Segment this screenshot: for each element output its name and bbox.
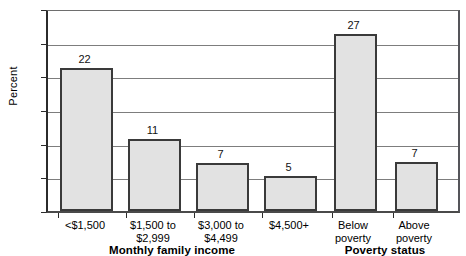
y-axis-label: Percent: [7, 49, 19, 123]
bar-income-under-1500[interactable]: [60, 68, 113, 211]
bar-poverty-above[interactable]: [395, 162, 438, 211]
x-category-line2: poverty: [373, 232, 455, 245]
x-tick-mark-1: [126, 213, 127, 218]
group-label-monthly-family-income: Monthly family income: [77, 244, 267, 256]
x-tick-mark-5: [393, 213, 394, 218]
bar-chart: Percent 30 25 20 15 10 5 0 22 11 7 5 27 …: [0, 0, 466, 256]
bar-income-4500-plus[interactable]: [264, 176, 317, 211]
bar-poverty-below[interactable]: [334, 34, 377, 211]
x-tick-mark-3: [262, 213, 263, 218]
x-category-label-poverty-above: Above poverty: [373, 219, 455, 244]
bar-value-income-under-1500: 22: [58, 54, 111, 65]
bar-value-poverty-below: 27: [332, 20, 375, 31]
bar-income-1500-2999[interactable]: [128, 139, 181, 211]
bar-value-income-3000-4499: 7: [194, 149, 247, 160]
bar-value-poverty-above: 7: [393, 148, 436, 159]
gridline-25: [48, 45, 458, 46]
plot-area: [46, 10, 460, 213]
bar-income-3000-4499[interactable]: [196, 163, 249, 211]
bar-value-income-1500-2999: 11: [126, 125, 179, 136]
x-category-line2: $4,499: [176, 232, 266, 245]
x-category-line1: Above: [373, 219, 455, 232]
x-tick-mark-4: [332, 213, 333, 218]
group-label-poverty-status: Poverty status: [310, 244, 460, 256]
x-tick-mark-2: [194, 213, 195, 218]
bar-value-income-4500-plus: 5: [262, 162, 315, 173]
x-tick-mark-0: [58, 213, 59, 218]
